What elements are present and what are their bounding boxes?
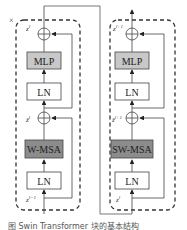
label-zhat-l: ẑl [25, 115, 31, 124]
corner-x-mark: × [9, 16, 14, 25]
ln-label-r-bottom: LN [125, 176, 138, 187]
add-icon-mid-l [38, 112, 50, 124]
sw-msa-label: SW-MSA [112, 144, 152, 155]
label-z-l-in: zl [115, 195, 121, 204]
swin-transformer-diagram: × zl MLP LN ẑl W-MSA [0, 0, 187, 230]
ln-label-r-top: LN [125, 87, 138, 98]
mlp-label-r: MLP [122, 56, 143, 67]
label-z-l-minus-1: zl−1 [25, 195, 36, 204]
add-icon-mid-r [126, 112, 138, 124]
label-z-l-plus-1-out: zl+1 [112, 24, 123, 33]
block-l-plus-1: zl+1 MLP LN ẑl+1 SW-MSA LN zl [110, 10, 175, 214]
label-z-l-out: zl [25, 24, 31, 33]
block-l: zl MLP LN ẑl W-MSA LN zl−1 [16, 6, 80, 214]
label-zhat-l-plus-1: ẑl+1 [111, 115, 122, 124]
add-icon-top-r [126, 28, 138, 40]
ln-label-l-bottom: LN [37, 176, 50, 187]
figure-caption: 图 Swin Transformer 块的基本结构 [8, 221, 139, 230]
w-msa-label: W-MSA [27, 144, 62, 155]
mlp-label-l: MLP [34, 56, 55, 67]
ln-label-l-top: LN [37, 87, 50, 98]
add-icon-top-l [38, 28, 50, 40]
